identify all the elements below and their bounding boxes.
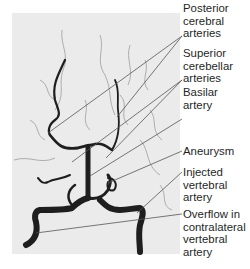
leader-lines: [36, 36, 182, 233]
label-basilar-artery: Basilar artery: [183, 86, 218, 111]
leader-overflow-contralateral: [36, 214, 182, 233]
label-injected-vertebral-artery: Injected vertebral artery: [183, 166, 227, 204]
leader-injected-vertebral: [137, 172, 182, 213]
small-vessels: [14, 30, 172, 210]
leader-superior-cerebellar-left: [72, 80, 182, 162]
leader-posterior-cerebral-left: [48, 36, 182, 133]
angiogram-figure: Posterior cerebral arteries Superior cer…: [0, 0, 250, 269]
label-superior-cerebellar-arteries: Superior cerebellar arteries: [183, 47, 233, 85]
leader-posterior-cerebral-right: [117, 36, 182, 117]
label-overflow-contralateral-vertebral-artery: Overflow in contralateral vertebral arte…: [183, 208, 246, 258]
leader-aneurysm: [108, 151, 182, 183]
major-vessels: [26, 60, 143, 252]
label-aneurysm: Aneurysm: [183, 145, 234, 158]
label-posterior-cerebral-arteries: Posterior cerebral arteries: [183, 2, 229, 40]
